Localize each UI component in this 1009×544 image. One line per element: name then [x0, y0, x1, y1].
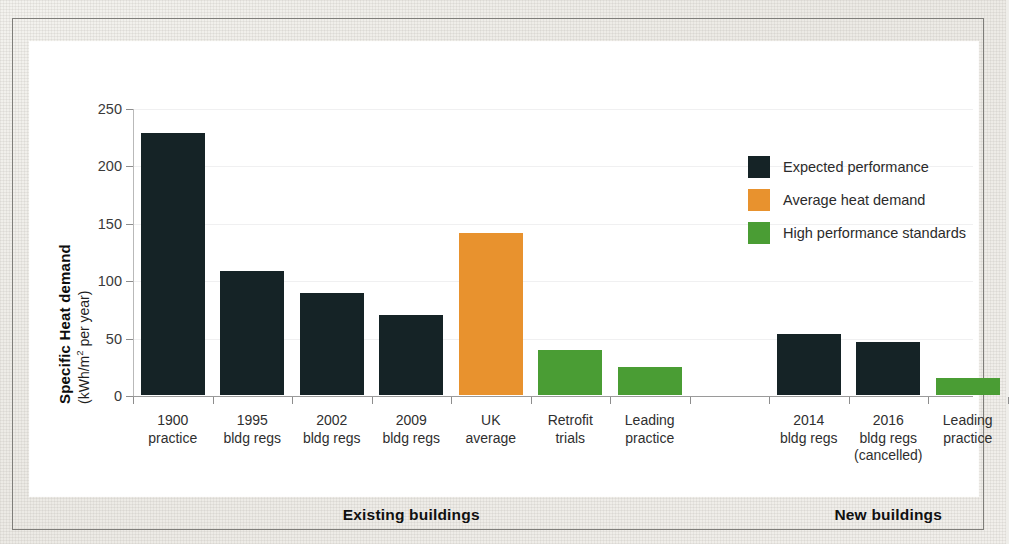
x-axis-label-line: bldg regs — [849, 430, 929, 448]
x-axis-label-line: Leading — [610, 412, 690, 430]
x-axis-label-line: 2016 — [849, 412, 929, 430]
x-axis-label-line: UK — [451, 412, 531, 430]
x-axis-label: 2014bldg regs — [769, 412, 849, 447]
x-axis-tick-mark — [690, 397, 691, 404]
y-axis-title-units: (kWh/m2 per year) — [74, 291, 93, 404]
x-axis-tick-mark — [769, 397, 770, 404]
x-axis-line — [133, 396, 973, 397]
x-axis-label-line: bldg regs — [769, 430, 849, 448]
x-axis-label: Retrofittrials — [531, 412, 611, 447]
x-axis-label: Leadingpractice — [928, 412, 1008, 447]
legend-item-label: Expected performance — [783, 159, 929, 175]
y-axis-tick-label: 50 — [106, 331, 122, 347]
bar — [618, 367, 682, 395]
y-axis-tick-mark — [126, 166, 133, 167]
bar — [300, 293, 364, 395]
y-axis-title: Specific Heat demand (kWh/m2 per year) — [38, 154, 78, 404]
x-axis-tick-mark — [133, 397, 134, 404]
x-axis-tick-mark — [292, 397, 293, 404]
y-axis-line — [133, 109, 134, 397]
x-axis-label-line: Retrofit — [531, 412, 611, 430]
y-axis-tick-mark — [126, 109, 133, 110]
x-axis-label-line: bldg regs — [213, 430, 293, 448]
legend-item-label: Average heat demand — [783, 192, 925, 208]
y-axis-title-main: Specific Heat demand — [56, 244, 74, 404]
group-label: New buildings — [769, 506, 1008, 524]
legend-color-swatch — [748, 222, 770, 244]
x-axis-label: 2002bldg regs — [292, 412, 372, 447]
x-axis-tick-mark — [849, 397, 850, 404]
y-axis-tick-label: 100 — [98, 273, 122, 289]
legend-item: High performance standards — [748, 216, 966, 249]
legend-color-swatch — [748, 189, 770, 211]
x-axis-label: Leadingpractice — [610, 412, 690, 447]
y-axis-tick-label: 0 — [114, 388, 122, 404]
x-axis-label-line: 2009 — [372, 412, 452, 430]
x-axis-tick-mark — [372, 397, 373, 404]
bar — [856, 342, 920, 395]
x-axis-label-line: Leading — [928, 412, 1008, 430]
x-axis-label-line: trials — [531, 430, 611, 448]
chart-legend: Expected performanceAverage heat demandH… — [748, 150, 966, 249]
bar — [379, 315, 443, 395]
x-axis-label-line: practice — [928, 430, 1008, 448]
y-axis-tick-label: 250 — [98, 101, 122, 117]
x-axis-tick-mark — [610, 397, 611, 404]
x-axis-label: 1995bldg regs — [213, 412, 293, 447]
legend-color-swatch — [748, 156, 770, 178]
y-axis-tick-mark — [126, 339, 133, 340]
group-label: Existing buildings — [133, 506, 690, 524]
y-axis-tick-mark — [126, 281, 133, 282]
x-axis-tick-mark — [1008, 397, 1009, 404]
x-axis-label: 2009bldg regs — [372, 412, 452, 447]
x-axis-label-line: 1900 — [133, 412, 213, 430]
y-axis-tick-mark — [126, 224, 133, 225]
legend-item-label: High performance standards — [783, 225, 966, 241]
gridline — [133, 109, 973, 110]
x-axis-label-line: practice — [610, 430, 690, 448]
bar — [538, 350, 602, 395]
y-axis-tick-mark — [126, 396, 133, 397]
bar — [459, 233, 523, 395]
bar — [141, 133, 205, 395]
x-axis-tick-mark — [531, 397, 532, 404]
x-axis-label-line: bldg regs — [292, 430, 372, 448]
bar — [777, 334, 841, 395]
x-axis-label: 2016bldg regs(cancelled) — [849, 412, 929, 465]
x-axis-label-line: 1995 — [213, 412, 293, 430]
y-axis-tick-label: 200 — [98, 158, 122, 174]
x-axis-label-line: (cancelled) — [849, 447, 929, 465]
x-axis-label-line: practice — [133, 430, 213, 448]
x-axis-tick-mark — [451, 397, 452, 404]
bar — [220, 271, 284, 395]
chart-canvas: Specific Heat demand (kWh/m2 per year) 0… — [30, 42, 978, 496]
x-axis-tick-mark — [928, 397, 929, 404]
x-axis-label-line: average — [451, 430, 531, 448]
legend-item: Expected performance — [748, 150, 966, 183]
legend-item: Average heat demand — [748, 183, 966, 216]
x-axis-tick-mark — [213, 397, 214, 404]
x-axis-label-line: 2002 — [292, 412, 372, 430]
bar — [936, 378, 1000, 395]
x-axis-label: UKaverage — [451, 412, 531, 447]
x-axis-label-line: bldg regs — [372, 430, 452, 448]
x-axis-label-line: 2014 — [769, 412, 849, 430]
y-axis-tick-label: 150 — [98, 216, 122, 232]
x-axis-label: 1900practice — [133, 412, 213, 447]
